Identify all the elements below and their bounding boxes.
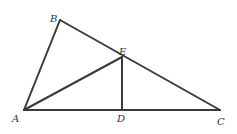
label-a: A (11, 113, 19, 124)
segment-bc (60, 20, 220, 110)
segment-ae (24, 57, 122, 110)
label-c: C (217, 116, 225, 127)
triangle-diagram: A B C D E (0, 0, 237, 134)
label-e: E (118, 46, 127, 57)
label-b: B (49, 13, 57, 24)
segment-ab (24, 20, 60, 110)
label-d: D (116, 113, 125, 124)
